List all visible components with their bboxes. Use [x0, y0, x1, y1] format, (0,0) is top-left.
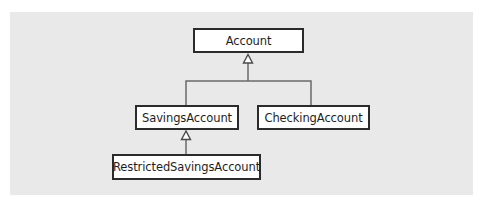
class-account-label: Account	[226, 34, 272, 48]
class-restricted-savings-account: RestrictedSavingsAccount	[112, 154, 261, 180]
inheritance-arrow-icon	[244, 55, 253, 64]
class-savings-account-label: SavingsAccount	[142, 111, 232, 125]
class-savings-account: SavingsAccount	[135, 105, 239, 130]
class-restricted-savings-account-label: RestrictedSavingsAccount	[113, 160, 260, 174]
class-checking-account-label: CheckingAccount	[264, 111, 362, 125]
inheritance-arrow-icon	[182, 131, 191, 140]
class-account: Account	[193, 28, 304, 53]
generalization-account	[186, 63, 311, 105]
class-checking-account: CheckingAccount	[257, 105, 370, 130]
